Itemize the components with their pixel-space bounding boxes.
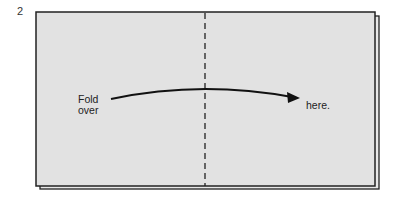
over-text: over: [78, 105, 98, 116]
fold-over-label: Fold over: [78, 94, 98, 116]
here-label: here.: [306, 100, 330, 111]
folding-diagram: [0, 0, 395, 200]
